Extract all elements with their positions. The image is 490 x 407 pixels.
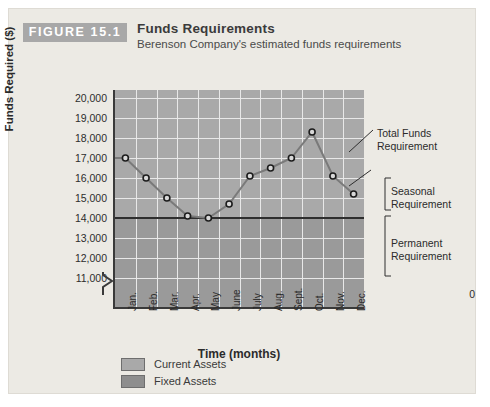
annotation-permanent-requirement: Permanent Requirement — [391, 237, 451, 263]
y-axis-zero-label: 0 — [469, 288, 475, 300]
x-axis-tick-label: Aug. — [273, 290, 284, 311]
x-axis-tick-label: Jan. — [127, 292, 138, 311]
data-point-marker — [185, 213, 191, 219]
annotation-permanent-line1: Permanent — [391, 237, 451, 250]
data-point-marker — [330, 173, 336, 179]
x-axis-tick-label: July — [252, 293, 263, 311]
data-point-marker — [164, 195, 170, 201]
data-point-marker — [309, 129, 315, 135]
data-point-marker — [122, 155, 128, 161]
x-axis-tick-label: May — [210, 292, 221, 311]
x-axis-tick-label: June — [231, 289, 242, 311]
annotation-permanent-line2: Requirement — [391, 250, 451, 263]
legend-label: Current Assets — [154, 358, 226, 370]
legend-item: Fixed Assets — [121, 374, 226, 388]
legend-label: Fixed Assets — [154, 375, 216, 387]
x-axis-tick-label: Sept. — [293, 288, 304, 311]
series-line — [115, 132, 354, 218]
annotation-total-funds-line1: Total Funds — [377, 127, 437, 140]
figure-subtitle: Berenson Company's estimated funds requi… — [137, 38, 401, 50]
y-axis-tick-labels: 11,00012,00013,00014,00015,00016,00017,0… — [9, 9, 107, 309]
x-axis-tick-label: Mar. — [169, 292, 180, 311]
annotation-seasonal-line1: Seasonal — [391, 185, 451, 198]
legend-item: Current Assets — [121, 357, 226, 371]
y-axis-tick-label: 15,000 — [75, 192, 107, 204]
y-axis-tick-label: 12,000 — [75, 252, 107, 264]
plot-area — [113, 90, 364, 309]
data-point-marker — [143, 175, 149, 181]
y-axis-tick-label: 18,000 — [75, 132, 107, 144]
data-point-marker — [226, 201, 232, 207]
figure-card: FIGURE 15.1 Funds Requirements Berenson … — [8, 8, 476, 394]
y-axis-tick-label: 14,000 — [75, 212, 107, 224]
y-axis-tick-label: 16,000 — [75, 172, 107, 184]
annotation-seasonal-requirement: Seasonal Requirement — [391, 185, 451, 211]
y-axis-tick-label: 19,000 — [75, 112, 107, 124]
data-point-marker — [268, 165, 274, 171]
legend-swatch — [121, 375, 145, 388]
legend-swatch — [121, 358, 145, 371]
data-point-marker — [205, 215, 211, 221]
y-axis-tick-label: 13,000 — [75, 232, 107, 244]
annotation-seasonal-line2: Requirement — [391, 198, 451, 211]
y-axis-tick-label: 20,000 — [75, 92, 107, 104]
annotation-total-funds-requirement: Total Funds Requirement — [377, 127, 437, 153]
chart-legend: Current AssetsFixed Assets — [121, 357, 226, 391]
annotation-total-funds-line2: Requirement — [377, 140, 437, 153]
figure-title: Funds Requirements — [137, 21, 275, 36]
x-axis-tick-label: Feb. — [148, 291, 159, 311]
x-axis-tick-label: Apr. — [190, 293, 201, 311]
y-axis-title: Funds Required ($) — [3, 0, 15, 159]
series-total-funds-requirement — [115, 90, 364, 307]
x-axis-tick-label: Dec. — [356, 290, 367, 311]
data-point-marker — [288, 155, 294, 161]
x-axis-tick-label: Oct. — [314, 293, 325, 311]
y-axis-tick-label: 17,000 — [75, 152, 107, 164]
x-axis-tick-label: Nov. — [335, 291, 346, 311]
data-point-marker — [247, 173, 253, 179]
